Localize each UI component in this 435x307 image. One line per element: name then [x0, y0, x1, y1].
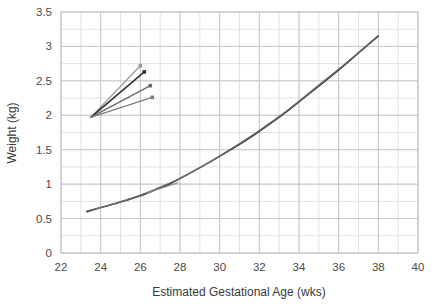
x-tick-label: 30 — [213, 261, 226, 273]
data-series-group — [87, 35, 379, 211]
series-growth-curve-main — [87, 36, 379, 212]
growth-chart: 22242628303234363840 00.511.522.533.5 Es… — [0, 0, 435, 307]
x-tick-label: 38 — [372, 261, 385, 273]
y-tick-labels: 00.511.522.533.5 — [36, 6, 52, 259]
x-tick-label: 36 — [332, 261, 345, 273]
series-fan-line-2 — [91, 70, 146, 117]
x-tick-label: 22 — [55, 261, 68, 273]
x-axis-title: Estimated Gestational Age (wks) — [152, 285, 325, 299]
x-tick-label: 28 — [174, 261, 187, 273]
y-tick-label: 1.5 — [36, 144, 52, 156]
y-tick-label: 3 — [46, 40, 52, 52]
x-tick-labels: 22242628303234363840 — [55, 261, 425, 273]
y-tick-label: 1 — [46, 178, 52, 190]
x-tick-label: 34 — [293, 261, 306, 273]
x-tick-label: 26 — [134, 261, 147, 273]
y-tick-label: 2 — [46, 109, 52, 121]
x-tick-label: 32 — [253, 261, 266, 273]
chart-container: 22242628303234363840 00.511.522.533.5 Es… — [0, 0, 435, 307]
series-growth-curve-overlay — [87, 35, 379, 211]
y-tick-label: 0.5 — [36, 213, 52, 225]
y-tick-label: 2.5 — [36, 75, 52, 87]
x-tick-label: 24 — [94, 261, 107, 273]
x-tick-label: 40 — [412, 261, 425, 273]
y-axis-title: Weight (kg) — [5, 102, 19, 163]
y-tick-label: 3.5 — [36, 6, 52, 18]
y-tick-label: 0 — [46, 247, 52, 259]
